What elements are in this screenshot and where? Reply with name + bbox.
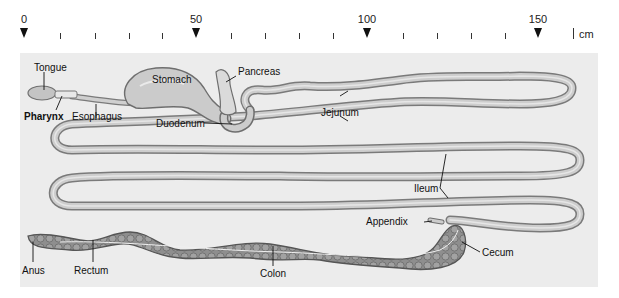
label-ileum: Ileum <box>414 183 438 194</box>
label-duodenum: Duodenum <box>156 118 205 129</box>
label-jejunum: Jejunum <box>321 107 359 118</box>
label-colon: Colon <box>260 268 286 279</box>
label-rectum: Rectum <box>74 265 108 276</box>
label-pancreas: Pancreas <box>238 66 280 77</box>
tongue <box>28 86 56 100</box>
label-pharynx: Pharynx <box>24 111 63 122</box>
label-anus: Anus <box>22 265 45 276</box>
label-appendix: Appendix <box>366 216 408 227</box>
label-stomach: Stomach <box>152 74 191 85</box>
pharynx <box>55 91 77 98</box>
digestive-tract-illustration <box>0 0 619 298</box>
large-intestine <box>28 225 466 269</box>
label-tongue: Tongue <box>34 62 67 73</box>
label-esophagus: Esophagus <box>72 111 122 122</box>
label-cecum: Cecum <box>482 247 514 258</box>
